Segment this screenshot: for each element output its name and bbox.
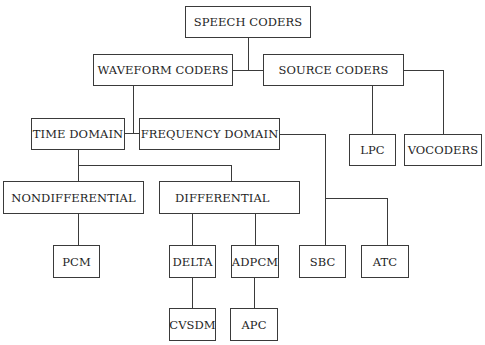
- connector-time-frequency: [124, 133, 139, 134]
- node-adpcm: ADPCM: [231, 245, 279, 278]
- connector-waveform-down: [133, 86, 134, 134]
- connector-diff-delta: [192, 213, 193, 245]
- node-lpc: LPC: [349, 134, 396, 166]
- connector-frequency-sbc: [325, 134, 326, 245]
- node-time-domain: TIME DOMAIN: [31, 118, 125, 150]
- node-atc: ATC: [361, 245, 409, 278]
- node-frequency-domain: FREQUENCY DOMAIN: [139, 118, 280, 150]
- connector-atc: [387, 198, 388, 245]
- node-vocoders: VOCODERS: [404, 134, 482, 166]
- node-nondifferential: NONDIFFERENTIAL: [3, 181, 144, 214]
- node-differential: DIFFERENTIAL: [159, 181, 300, 214]
- node-delta: DELTA: [169, 245, 216, 278]
- node-source-coders: SOURCE CODERS: [263, 54, 404, 86]
- node-sbc: SBC: [299, 245, 346, 278]
- node-speech-coders: SPEECH CODERS: [185, 6, 311, 38]
- node-apc: APC: [230, 308, 278, 341]
- connector-source-lpc: [372, 86, 373, 134]
- node-cvsdm: CVSDM: [169, 308, 216, 341]
- connector-adpcm-apc: [254, 277, 255, 308]
- connector-sbc-atc: [325, 198, 387, 199]
- connector-frequency-right: [279, 134, 325, 135]
- connector-differential-up: [231, 165, 232, 181]
- node-waveform-coders: WAVEFORM CODERS: [93, 54, 233, 86]
- connector-source-vocoders-v: [443, 70, 444, 134]
- connector-nondiff-pcm: [78, 213, 79, 245]
- connector-nondiff-diff: [78, 165, 231, 166]
- node-pcm: PCM: [53, 245, 100, 278]
- connector-speech-down: [248, 37, 249, 70]
- connector-delta-cvsdm: [192, 277, 193, 308]
- connector-source-vocoders-h: [404, 70, 444, 71]
- connector-diff-adpcm: [255, 213, 256, 245]
- connector-waveform-source: [232, 70, 263, 71]
